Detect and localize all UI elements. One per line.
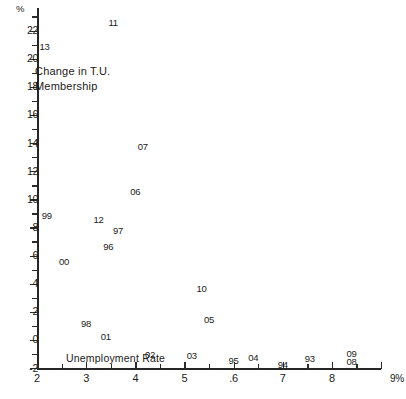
y-tick-label: 8 [8, 222, 38, 232]
y-tick-label: 4 [8, 278, 38, 288]
x-tick-label: 7 [270, 372, 296, 384]
data-point-label: 04 [248, 351, 258, 362]
y-tick-label: 2 [8, 306, 38, 316]
y-tick-label: 22 [8, 25, 38, 35]
x-tick-major [332, 362, 333, 369]
scatter-chart: % 9% Change in T.U. Membership Unemploym… [0, 0, 406, 399]
data-point-label: 93 [305, 353, 315, 364]
y-tick-minor [32, 241, 37, 242]
y-tick-minor [32, 326, 37, 327]
y-tick-minor [32, 101, 37, 102]
y-tick-label: 16 [8, 109, 38, 119]
data-point-label: 98 [81, 318, 91, 329]
x-axis-unit-label: 9% [390, 373, 404, 384]
y-tick-minor [32, 73, 37, 74]
x-tick-minor [111, 364, 112, 369]
x-tick-minor [62, 364, 63, 369]
data-point-label: 11 [109, 17, 118, 28]
y-axis-unit-label: % [16, 3, 24, 14]
x-tick-label: 3 [73, 372, 99, 384]
data-point-label: 05 [204, 313, 214, 324]
data-point-label: 00 [59, 256, 69, 267]
x-tick-label: 2 [24, 372, 50, 384]
x-tick-minor [258, 364, 259, 369]
y-tick-minor [32, 45, 37, 46]
y-tick-label: -2 [8, 363, 38, 373]
data-point-label: 10 [197, 282, 207, 293]
y-tick-label: 10 [8, 194, 38, 204]
x-tick-major [135, 362, 136, 369]
y-tick-minor [32, 157, 37, 158]
data-point-label: 03 [187, 350, 197, 361]
x-tick-minor [160, 364, 161, 369]
y-tick-label: 12 [8, 166, 38, 176]
data-point-label: 08 [347, 356, 357, 367]
data-point-label: 95 [229, 354, 239, 365]
x-tick-major [86, 362, 87, 369]
data-point-label: 12 [93, 213, 103, 224]
y-tick-minor [32, 270, 37, 271]
y-tick-minor [32, 129, 37, 130]
y-tick-label: 14 [8, 138, 38, 148]
x-tick-minor [209, 364, 210, 369]
data-point-label: 97 [113, 225, 123, 236]
y-tick-label: 6 [8, 250, 38, 260]
x-tick-label: 4 [122, 372, 148, 384]
data-point-label: 99 [42, 209, 52, 220]
y-tick-minor [32, 298, 37, 299]
data-point-label: 06 [130, 185, 140, 196]
x-tick-major [184, 362, 185, 369]
x-tick-label: .6 [221, 372, 247, 384]
y-tick-minor [32, 354, 37, 355]
data-point-label: 96 [103, 240, 113, 251]
data-point-label: 07 [138, 140, 148, 151]
y-tick-minor [32, 213, 37, 214]
y-tick-label: 0 [8, 334, 38, 344]
y-tick-minor [32, 185, 37, 186]
x-tick-minor [356, 364, 357, 369]
series-annotation-label: Change in T.U. Membership [35, 64, 110, 94]
data-point-label: 01 [101, 330, 111, 341]
x-tick-label: 5 [171, 372, 197, 384]
x-tick-major [381, 362, 382, 369]
y-tick-label: 18 [8, 81, 38, 91]
x-tick-major [37, 362, 38, 369]
x-tick-minor [307, 364, 308, 369]
data-point-label: 94 [278, 358, 288, 369]
y-tick-label: 20 [8, 53, 38, 63]
y-tick-minor [32, 16, 37, 17]
data-point-label: 02 [145, 348, 155, 359]
data-point-label: 13 [39, 41, 49, 52]
x-tick-label: 8 [319, 372, 345, 384]
